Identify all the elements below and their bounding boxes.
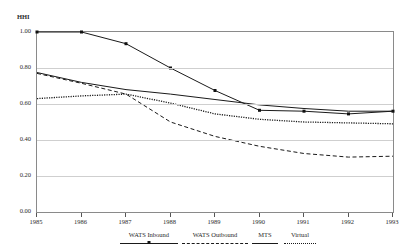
legend-item-virtual[interactable]: Virtual xyxy=(284,231,316,247)
x-axis: 198519861987198819891990199119921993 xyxy=(36,213,394,231)
data-point-marker xyxy=(347,112,350,115)
x-axis-tick-mark xyxy=(170,213,171,217)
legend-line-sample xyxy=(284,243,316,244)
series-line-wats-inbound xyxy=(37,32,393,114)
chart-title xyxy=(0,0,409,6)
legend-label: WATS Outbound xyxy=(182,231,248,238)
x-axis-tick-label: 1993 xyxy=(386,218,399,225)
x-axis-tick-label: 1991 xyxy=(297,218,310,225)
legend-line-sample xyxy=(182,243,248,244)
data-point-marker xyxy=(214,89,217,92)
series-line-wats-outbound xyxy=(37,73,393,157)
y-axis-tick-label: 0.40 xyxy=(5,135,31,142)
data-point-marker xyxy=(36,31,39,34)
x-axis-tick-mark xyxy=(259,213,260,217)
legend-label: MTS xyxy=(252,231,278,238)
y-axis-tick-label: 0.00 xyxy=(5,207,31,214)
x-axis-tick-mark xyxy=(303,213,304,217)
x-axis-tick-mark xyxy=(81,213,82,217)
legend-swatch xyxy=(120,241,178,247)
x-axis-tick-mark xyxy=(214,213,215,217)
y-axis-tick-label: 0.20 xyxy=(5,171,31,178)
gridline xyxy=(37,68,393,69)
x-axis-tick-label: 1985 xyxy=(30,218,43,225)
y-axis-tick-label: 0.60 xyxy=(5,99,31,106)
legend-item-wats-inbound[interactable]: WATS Inbound xyxy=(120,231,178,247)
legend-swatch xyxy=(182,241,248,247)
chart-container: HHI 0.000.200.400.600.801.00 19851986198… xyxy=(0,0,409,252)
plot-area xyxy=(36,31,394,213)
gridline xyxy=(37,140,393,141)
x-axis-tick-label: 1987 xyxy=(119,218,132,225)
legend-item-mts[interactable]: MTS xyxy=(252,231,278,247)
legend-label: WATS Inbound xyxy=(120,231,178,238)
x-axis-tick-mark xyxy=(36,213,37,217)
legend-swatch xyxy=(252,241,278,247)
legend-marker-sample xyxy=(148,241,151,244)
gridline xyxy=(37,176,393,177)
legend-line-sample xyxy=(252,243,278,244)
series-lines xyxy=(37,32,393,212)
x-axis-tick-label: 1990 xyxy=(252,218,265,225)
y-axis-tick-label: 1.00 xyxy=(5,27,31,34)
x-axis-tick-mark xyxy=(392,213,393,217)
series-line-virtual xyxy=(37,94,393,124)
x-axis-tick-mark xyxy=(125,213,126,217)
y-axis-label: HHI xyxy=(17,13,30,20)
data-point-marker xyxy=(303,110,306,113)
x-axis-tick-mark xyxy=(348,213,349,217)
chart-legend: WATS InboundWATS OutboundMTSVirtual xyxy=(0,231,409,252)
legend-item-wats-outbound[interactable]: WATS Outbound xyxy=(182,231,248,247)
legend-swatch xyxy=(284,241,316,247)
legend-label: Virtual xyxy=(284,231,316,238)
data-point-marker xyxy=(80,31,83,34)
gridline xyxy=(37,104,393,105)
x-axis-tick-label: 1986 xyxy=(74,218,87,225)
data-point-marker xyxy=(125,42,128,45)
x-axis-tick-label: 1992 xyxy=(341,218,354,225)
data-point-marker xyxy=(258,109,261,112)
x-axis-tick-label: 1988 xyxy=(163,218,176,225)
y-axis-tick-label: 0.80 xyxy=(5,63,31,70)
x-axis-tick-label: 1989 xyxy=(208,218,221,225)
